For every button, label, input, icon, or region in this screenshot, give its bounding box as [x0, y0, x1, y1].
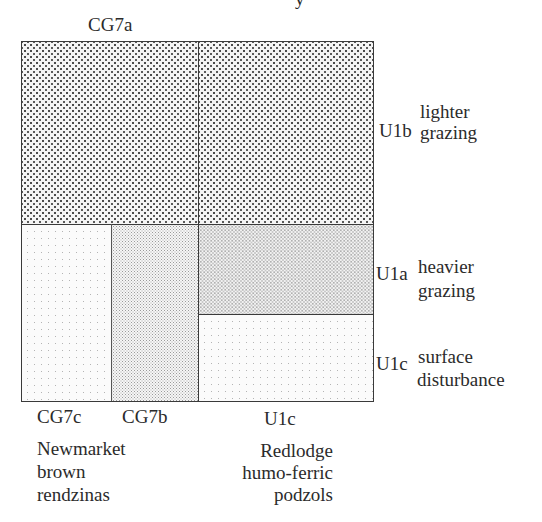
region-u1c: [199, 315, 373, 401]
label-cg7a: CG7a: [88, 14, 132, 36]
soil-redlodge-line3: podzols: [225, 484, 333, 506]
soil-newmarket-line2: brown: [37, 461, 86, 483]
soil-redlodge-group: Redlodge humo-ferric podzols: [225, 440, 333, 506]
desc-u1b-line1: lighter: [420, 101, 470, 123]
desc-u1c-line1: surface: [418, 346, 473, 368]
soil-newmarket-line3: rendzinas: [37, 484, 110, 506]
label-cg7b: CG7b: [122, 406, 167, 428]
label-u1b: U1b: [379, 120, 412, 142]
divider-u1a-u1c: [198, 314, 373, 316]
desc-u1a-line1: heavier: [418, 256, 474, 278]
region-cg7a: [22, 42, 198, 224]
desc-u1a-line2: grazing: [418, 280, 475, 302]
desc-u1c-line2: disturbance: [417, 369, 505, 391]
divider-vertical-main: [198, 42, 200, 401]
label-u1a: U1a: [376, 263, 408, 285]
soil-newmarket-line1: Newmarket: [37, 438, 126, 460]
title-fragment: y: [295, 0, 305, 10]
label-u1c: U1c: [376, 353, 408, 375]
divider-horizontal-main: [22, 224, 373, 226]
soil-redlodge-line1: Redlodge: [225, 440, 333, 462]
label-cg7c: CG7c: [37, 406, 81, 428]
desc-u1b-line2: grazing: [420, 122, 477, 144]
vegetation-soil-diagram: [21, 41, 374, 402]
label-u1c-bottom: U1c: [264, 408, 296, 430]
region-cg7b: [112, 225, 198, 401]
region-cg7c: [22, 225, 111, 401]
divider-cg7c-cg7b: [111, 224, 113, 401]
region-u1b: [199, 42, 373, 224]
region-u1a: [199, 225, 373, 314]
soil-redlodge-line2: humo-ferric: [225, 462, 333, 484]
